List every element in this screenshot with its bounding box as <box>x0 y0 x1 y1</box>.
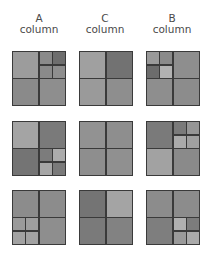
quadrant <box>107 191 132 217</box>
sub-quadrant <box>53 66 65 78</box>
quadrant <box>13 191 38 217</box>
subdivided-quadrant <box>13 218 38 244</box>
quadrant <box>80 122 105 148</box>
quadrant <box>107 218 132 244</box>
quadrant <box>147 149 172 175</box>
square-a-row2 <box>12 121 66 176</box>
sub-quadrant <box>147 66 159 78</box>
quadrant <box>107 79 132 105</box>
sub-quadrant <box>40 52 52 64</box>
quadrant <box>40 218 65 244</box>
column-word: column <box>9 24 69 35</box>
sub-quadrant <box>160 52 172 64</box>
quadrant <box>80 52 105 78</box>
column-word: column <box>75 24 135 35</box>
sub-quadrant <box>187 136 199 148</box>
square-b-row1 <box>146 51 200 106</box>
sub-quadrant <box>40 163 52 175</box>
quadrant <box>107 122 132 148</box>
sub-quadrant <box>53 149 65 161</box>
sub-quadrant <box>26 232 38 244</box>
quadrant <box>80 79 105 105</box>
sub-quadrant <box>53 52 65 64</box>
sub-quadrant <box>187 218 199 230</box>
subdivided-quadrant <box>40 52 65 78</box>
quadrant <box>174 191 199 217</box>
subdivided-quadrant <box>174 122 199 148</box>
quadrant <box>107 149 132 175</box>
column-word: column <box>142 24 202 35</box>
square-a-row1 <box>12 51 66 106</box>
quadrant <box>40 122 65 148</box>
subdivided-quadrant <box>147 52 172 78</box>
column-header-b: B column <box>142 13 202 35</box>
sub-quadrant <box>160 66 172 78</box>
sub-quadrant <box>13 232 25 244</box>
subdivided-quadrant <box>174 218 199 244</box>
quadrant <box>174 79 199 105</box>
column-header-c: C column <box>75 13 135 35</box>
quadrant <box>107 52 132 78</box>
quadrant <box>13 122 38 148</box>
sub-quadrant <box>187 232 199 244</box>
sub-quadrant <box>13 218 25 230</box>
quadrant <box>147 218 172 244</box>
quadrant <box>147 191 172 217</box>
quadrant <box>147 79 172 105</box>
square-b-row3 <box>146 190 200 245</box>
quadrant <box>174 52 199 78</box>
quadrant <box>13 149 38 175</box>
quadrant <box>40 191 65 217</box>
sub-quadrant <box>40 149 52 161</box>
sub-quadrant <box>174 232 186 244</box>
quadrant <box>80 149 105 175</box>
sub-quadrant <box>174 122 186 134</box>
quadrant <box>80 191 105 217</box>
sub-quadrant <box>147 52 159 64</box>
quadrant <box>40 79 65 105</box>
square-c-row2 <box>79 121 133 176</box>
sub-quadrant <box>187 122 199 134</box>
sub-quadrant <box>26 218 38 230</box>
quadrant <box>80 218 105 244</box>
quadrant <box>147 122 172 148</box>
sub-quadrant <box>40 66 52 78</box>
square-c-row1 <box>79 51 133 106</box>
sub-quadrant <box>53 163 65 175</box>
sub-quadrant <box>174 136 186 148</box>
quadrant <box>174 149 199 175</box>
quadrant <box>13 52 38 78</box>
sub-quadrant <box>174 218 186 230</box>
square-a-row3 <box>12 190 66 245</box>
square-c-row3 <box>79 190 133 245</box>
square-b-row2 <box>146 121 200 176</box>
subdivided-quadrant <box>40 149 65 175</box>
quadrant <box>13 79 38 105</box>
column-header-a: A column <box>9 13 69 35</box>
